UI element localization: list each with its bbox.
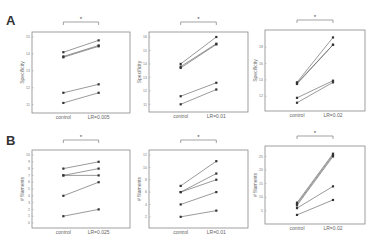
x-category-label: LR=0.01 [207,229,226,235]
data-point [332,36,334,38]
series-line [181,174,217,193]
series-line [63,45,98,56]
y-tick-label: 10 [26,153,30,157]
series-line [181,90,217,105]
plot-frame [265,146,365,224]
series-line [63,209,98,216]
data-point [215,191,217,193]
y-tick-label: 11 [143,103,147,107]
plot-frame [149,150,248,228]
y-axis-label: Specificity [19,61,25,84]
x-category-label: LR=0.02 [323,225,342,231]
y-tick-label: 8 [145,178,147,182]
series-line [63,93,98,103]
y-tick-label: 14 [143,62,147,66]
y-tick-label: 5 [28,187,30,191]
significance-asterisk: * [314,130,317,136]
y-tick-label: 7 [28,174,30,178]
y-tick-label: 10 [143,166,147,170]
significance-bracket [63,22,98,25]
x-category-label: control [173,229,188,235]
chart-panel-b1: 012345678910# filamentscontrolLR=0.025* [19,134,130,235]
chart-panel-b2: 24681012# filamentscontrolLR=0.01* [136,134,248,235]
data-point [215,82,217,84]
x-category-label: LR=0.02 [323,112,342,118]
data-point [180,67,182,69]
data-point [296,83,298,85]
x-category-label: LR=0.01 [207,113,226,119]
y-tick-label: 6 [145,190,147,194]
y-tick-label: 12 [26,86,30,90]
y-tick-label: 15 [26,35,30,39]
y-tick-label: 8 [28,167,30,171]
y-axis-label: Specificity [136,60,142,83]
y-tick-label: 13 [26,69,30,73]
series-line [63,182,98,196]
data-point [180,191,182,193]
data-point [332,44,334,46]
y-tick-label: 12 [143,89,147,93]
series-line [63,40,98,52]
series-line [181,37,217,64]
y-tick-label: 16 [143,35,147,39]
x-category-label: control [56,229,71,235]
data-point [180,216,182,218]
series-line [297,45,333,84]
data-point [62,195,64,197]
series-line [297,156,333,205]
data-point [98,39,100,41]
series-line [181,161,217,186]
series-line [181,44,217,68]
data-point [62,102,64,104]
chart-panel-a1: 1112131415SpecificitycontrolLR=0.005* [19,16,130,120]
data-point [215,43,217,45]
series-line [63,84,98,92]
series-line [181,83,217,96]
panel-label-b: B [6,133,15,148]
y-tick-label: 25 [259,155,263,159]
data-point [180,185,182,187]
y-tick-label: 4 [145,203,147,207]
y-axis-label: # filaments [19,176,25,201]
significance-asterisk: * [80,134,83,140]
series-line [63,46,98,57]
data-point [215,179,217,181]
series-line [297,37,333,82]
chart-panel-a3: 12141618SpecificitycontrolLR=0.02* [252,14,365,118]
plot-frame [149,32,248,112]
y-tick-label: 0 [28,221,30,225]
panel-label-a: A [6,13,16,28]
y-tick-label: 5 [261,209,263,213]
significance-asterisk: * [80,16,83,22]
y-tick-label: 14 [26,52,30,56]
x-category-label: LR=0.025 [88,229,110,235]
data-point [98,45,100,47]
series-line [297,186,333,208]
significance-bracket [297,136,333,139]
data-point [62,92,64,94]
data-point [296,102,298,104]
x-category-label: control [289,112,304,118]
data-point [62,174,64,176]
data-point [332,185,334,187]
y-tick-label: 11 [26,103,30,107]
chart-panel-a2: 111213141516SpecificitycontrolLR=0.01* [136,16,248,119]
data-point [180,95,182,97]
data-point [180,63,182,65]
data-point [332,155,334,157]
y-tick-label: 16 [259,62,263,66]
y-axis-label: # filaments [136,176,142,201]
y-tick-label: 20 [259,168,263,172]
series-line [181,211,217,217]
series-line [181,192,217,204]
data-point [98,92,100,94]
series-line [297,81,333,98]
series-line [181,44,217,67]
y-tick-label: 15 [143,49,147,53]
series-line [63,169,98,176]
plot-frame [32,32,130,113]
y-tick-label: 1 [28,214,30,218]
x-category-label: LR=0.005 [88,114,110,120]
series-line [297,154,333,203]
y-tick-label: 14 [259,78,263,82]
